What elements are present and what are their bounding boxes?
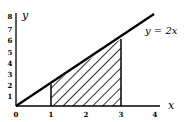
chart: 1 2 3 4 5 6 7 8 0 1 2 3 4 y x y = 2x	[0, 0, 190, 122]
x-tick-labels: 0 1 2 3 4	[14, 110, 158, 119]
shaded-region	[51, 39, 121, 106]
y-axis-label: y	[21, 9, 29, 22]
svg-text:4: 4	[153, 110, 158, 119]
equation-label: y = 2x	[144, 25, 178, 36]
y-tick-labels: 1 2 3 4 5 6 7 8	[8, 12, 13, 101]
svg-text:1: 1	[49, 110, 54, 119]
svg-text:2: 2	[8, 81, 13, 90]
svg-text:3: 3	[8, 70, 13, 79]
svg-text:4: 4	[8, 59, 13, 68]
svg-text:3: 3	[119, 110, 124, 119]
svg-text:6: 6	[8, 36, 13, 45]
svg-text:2: 2	[84, 110, 89, 119]
svg-text:7: 7	[8, 25, 13, 34]
x-axis-label: x	[168, 99, 175, 112]
svg-text:5: 5	[8, 48, 13, 57]
svg-text:1: 1	[8, 92, 13, 101]
svg-text:8: 8	[8, 12, 13, 21]
svg-text:0: 0	[14, 110, 19, 119]
